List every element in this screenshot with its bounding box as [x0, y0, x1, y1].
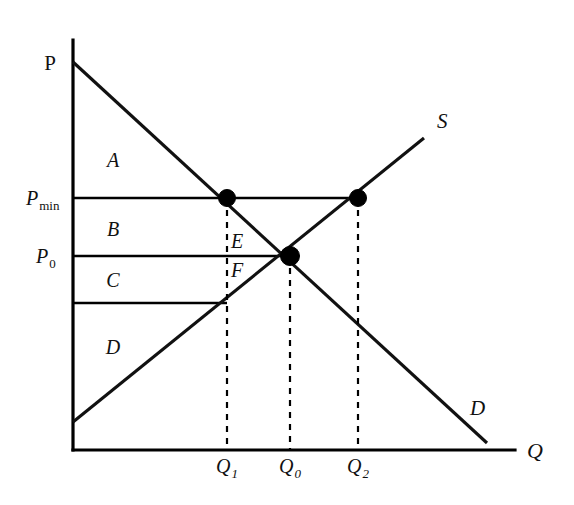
curves-group [73, 62, 487, 443]
supply-demand-diagram: P Q Pmin P0 S D [0, 0, 574, 505]
price-floor-label: Pmin [25, 187, 60, 213]
q1-subscript: 1 [231, 466, 238, 481]
q1-label: Q1 [216, 455, 238, 481]
quantity-drop-lines [227, 198, 358, 450]
p-zero-base: P [35, 245, 48, 267]
demand-curve [73, 62, 487, 443]
p-zero-subscript: 0 [49, 256, 56, 271]
q0-subscript: 0 [294, 466, 301, 481]
market-equilibrium-point [281, 247, 300, 266]
supply-curve-label: S [437, 109, 448, 133]
price-axis-label: P [44, 51, 56, 75]
q2-base: Q [347, 455, 362, 477]
region-label-a: A [105, 149, 120, 171]
q0-base: Q [279, 455, 294, 477]
price-tick-labels: Pmin P0 [25, 187, 60, 271]
equilibrium-price-label: P0 [35, 245, 56, 271]
region-labels-group: A B C D E F [105, 149, 244, 358]
region-label-e: E [230, 230, 243, 252]
supply-curve [73, 138, 424, 422]
quantity-axis-label: Q [527, 438, 543, 463]
q0-label: Q0 [279, 455, 301, 481]
quantity-tick-labels: Q1 Q0 Q2 [216, 455, 369, 481]
demand-at-price-floor-point [219, 190, 236, 207]
q1-base: Q [216, 455, 231, 477]
region-label-c: C [106, 269, 120, 291]
region-label-d: D [105, 336, 121, 358]
p-min-subscript: min [39, 198, 60, 213]
q2-label: Q2 [347, 455, 369, 481]
region-label-b: B [107, 218, 119, 240]
supply-at-price-floor-point [350, 190, 367, 207]
region-label-f: F [230, 259, 244, 281]
p-min-base: P [25, 187, 38, 209]
q2-subscript: 2 [362, 466, 369, 481]
price-floor-figure: P Q Pmin P0 S D [0, 0, 574, 505]
demand-curve-label: D [469, 396, 485, 420]
